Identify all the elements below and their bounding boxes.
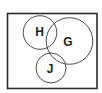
venn-diagram: H G J — [0, 0, 102, 93]
set-h-label: H — [35, 25, 44, 39]
set-g-label: G — [63, 35, 72, 49]
set-j-label: J — [47, 62, 54, 76]
